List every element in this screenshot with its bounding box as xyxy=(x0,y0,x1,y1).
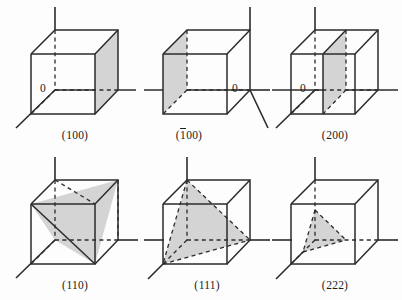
plane-label-111-rest: 111) xyxy=(199,279,220,291)
plane-label-1bar00-rest: 00) xyxy=(186,129,202,141)
unit-cell-222 xyxy=(268,152,402,300)
plane-label-200: (200) xyxy=(268,129,402,141)
plane-label-111: (111) xyxy=(140,279,274,291)
unit-cell-111 xyxy=(140,152,274,300)
plane-label-222: (222) xyxy=(268,279,402,291)
plane-label-110: (110) xyxy=(8,279,142,291)
origin-label-200: 0 xyxy=(300,82,306,94)
plane-label-200-rest: 200) xyxy=(326,129,348,141)
plane-label-110-rest: 110) xyxy=(66,279,87,291)
plane-label-1bar00: (100) xyxy=(122,129,256,141)
miller-indices-figure: 0 (100) 0 (100) xyxy=(0,0,402,300)
origin-label-1bar00: 0 xyxy=(232,82,238,94)
unit-cell-110 xyxy=(8,152,142,300)
plane-label-100-rest: 100) xyxy=(66,129,88,141)
plane-label-222-rest: 222) xyxy=(326,279,348,291)
origin-label-100: 0 xyxy=(40,82,46,94)
